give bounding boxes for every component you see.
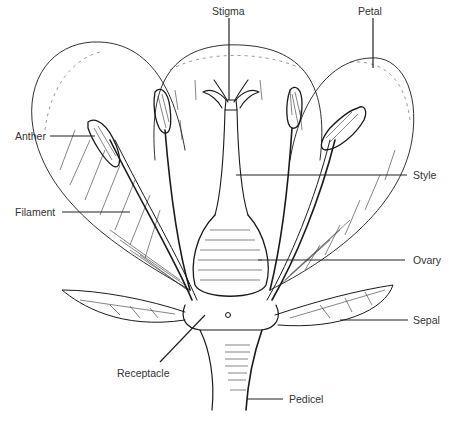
- petal-right: [270, 58, 414, 290]
- stamen-far-right: [267, 107, 366, 300]
- ovary: [193, 215, 268, 296]
- petal-left: [32, 42, 190, 292]
- label-sepal: Sepal: [413, 314, 440, 326]
- style: [215, 110, 248, 215]
- label-ovary: Ovary: [413, 254, 441, 266]
- label-petal: Petal: [358, 5, 382, 17]
- stamen-far-left: [88, 120, 197, 300]
- pedicel: [200, 330, 262, 410]
- label-receptacle: Receptacle: [117, 367, 170, 379]
- label-filament: Filament: [15, 206, 55, 218]
- label-stigma: Stigma: [212, 5, 245, 17]
- flower-diagram: [0, 0, 455, 431]
- sepal-left: [62, 290, 185, 322]
- receptacle: [183, 305, 278, 330]
- label-pedicel: Pedicel: [289, 393, 323, 405]
- label-style: Style: [413, 169, 436, 181]
- stigma: [203, 80, 259, 110]
- label-anther: Anther: [15, 130, 46, 142]
